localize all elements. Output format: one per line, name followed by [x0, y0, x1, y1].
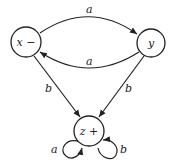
edge-z-loop-right	[98, 140, 117, 159]
node-z-final: z +	[74, 116, 104, 146]
node-z-label: z +	[79, 125, 99, 138]
node-y-label: y	[147, 37, 155, 50]
edge-label-x-z: b	[45, 82, 52, 95]
edge-x-to-z	[34, 56, 80, 117]
edge-x-to-y	[40, 17, 137, 34]
edge-label-y-z: b	[125, 82, 132, 95]
node-x-label: x −	[17, 36, 36, 49]
edge-label-y-x: a	[86, 55, 93, 68]
edge-label-z-loop-a: a	[51, 143, 58, 156]
edge-label-z-loop-b: b	[120, 143, 127, 156]
edge-y-to-z	[99, 56, 144, 117]
node-y: y	[137, 29, 165, 57]
edge-z-loop-left	[63, 141, 82, 158]
automaton-diagram: a a b b a b x − y z +	[0, 0, 176, 165]
node-x-start: x −	[11, 27, 41, 57]
edge-label-x-y: a	[86, 3, 93, 16]
